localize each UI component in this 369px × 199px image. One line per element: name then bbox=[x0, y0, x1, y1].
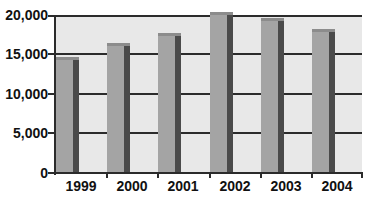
y-tick-label: 15,000 bbox=[5, 47, 48, 61]
bar-side-face bbox=[73, 58, 79, 173]
bar-2004 bbox=[312, 29, 335, 173]
bar-2002 bbox=[210, 12, 233, 173]
x-tick-mark bbox=[106, 172, 108, 178]
bar-top-face bbox=[261, 18, 284, 21]
x-tick-label: 2004 bbox=[312, 179, 362, 193]
x-tick-mark bbox=[157, 172, 159, 178]
x-axis bbox=[48, 172, 362, 174]
x-tick-mark bbox=[209, 172, 211, 178]
y-tick-label: 20,000 bbox=[5, 8, 48, 22]
y-tick-label: 5,000 bbox=[13, 126, 48, 140]
x-tick-label: 2001 bbox=[158, 179, 208, 193]
bar-side-face bbox=[124, 44, 130, 173]
x-tick-mark bbox=[260, 172, 262, 178]
bar-side-face bbox=[329, 30, 335, 173]
y-tick-label: 0 bbox=[40, 166, 48, 180]
bar-top-face bbox=[312, 29, 335, 32]
bar-front-face bbox=[261, 21, 278, 173]
x-tick-mark bbox=[361, 172, 363, 178]
x-tick-label: 2003 bbox=[261, 179, 311, 193]
bar-front-face bbox=[56, 60, 73, 173]
bar-2001 bbox=[158, 33, 181, 173]
bar-side-face bbox=[175, 34, 181, 173]
bar-2000 bbox=[107, 43, 130, 173]
bar-top-face bbox=[107, 43, 130, 46]
bar-1999 bbox=[56, 57, 79, 173]
bar-front-face bbox=[107, 46, 124, 173]
x-tick-mark bbox=[311, 172, 313, 178]
gridline-20000 bbox=[55, 15, 362, 17]
bar-side-face bbox=[278, 19, 284, 173]
bar-top-face bbox=[158, 33, 181, 36]
x-tick-label: 1999 bbox=[56, 179, 106, 193]
x-tick-label: 2002 bbox=[210, 179, 260, 193]
bar-front-face bbox=[210, 15, 227, 173]
bar-front-face bbox=[312, 32, 329, 173]
x-tick-label: 2000 bbox=[107, 179, 157, 193]
bar-side-face bbox=[227, 13, 233, 173]
bar-chart: 0 5,000 10,000 15,000 20,000 1999 2000 2… bbox=[0, 0, 369, 199]
bar-top-face bbox=[210, 12, 233, 15]
bar-front-face bbox=[158, 36, 175, 173]
y-axis bbox=[54, 15, 56, 175]
y-tick-label: 10,000 bbox=[5, 87, 48, 101]
bar-top-face bbox=[56, 57, 79, 60]
bar-2003 bbox=[261, 18, 284, 173]
